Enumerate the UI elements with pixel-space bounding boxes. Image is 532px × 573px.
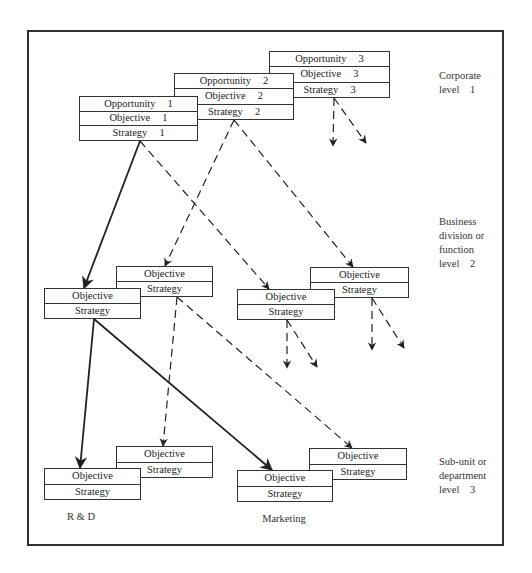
row-number: 2 (255, 107, 260, 118)
row-number: 3 (353, 69, 358, 80)
strategy-row: Strategy1 (80, 125, 197, 140)
row-label: Objective (72, 291, 113, 302)
level-label-3: Sub-unit or department level 3 (439, 455, 487, 497)
row-label: Strategy (75, 306, 110, 317)
objective-row: Objective (45, 289, 140, 303)
objective-row: Objective (117, 447, 212, 462)
objective-row: Objective (117, 267, 212, 281)
opportunity-row: Opportunity3 (270, 52, 389, 66)
dashed-arrow (165, 120, 234, 266)
row-label: Objective (72, 471, 113, 482)
row-label: Strategy (342, 285, 377, 296)
objective-row: Objective1 (80, 111, 197, 126)
row-label: Opportunity (295, 54, 346, 65)
row-number: 2 (263, 76, 268, 87)
row-label: Objective (266, 292, 307, 303)
row-label: Strategy (147, 465, 182, 476)
objective-row: Objective (238, 471, 332, 486)
unit-label-marketing: Marketing (262, 513, 306, 524)
hierarchy-diagram: Opportunity3Objective3Strategy3Opportuni… (0, 0, 532, 573)
dashed-arrow (334, 98, 366, 143)
row-label: Strategy (269, 307, 304, 318)
objective-row: Objective (310, 449, 406, 464)
row-label: Objective (300, 69, 341, 80)
row-number: 1 (162, 113, 167, 124)
objective-row: Objective (238, 290, 334, 304)
row-label: Objective (144, 449, 185, 460)
row-label: Strategy (268, 489, 303, 500)
row-number: 1 (168, 99, 173, 110)
dashed-arrow (234, 120, 353, 267)
row-label: Objective (144, 269, 185, 280)
row-label: Objective (109, 113, 150, 124)
opportunity-row: Opportunity1 (80, 97, 197, 111)
row-label: Objective (265, 473, 306, 484)
row-label: Strategy (303, 85, 338, 96)
row-number: 3 (350, 85, 355, 96)
division-a-front-box: ObjectiveStrategy (44, 288, 141, 319)
row-label: Objective (339, 270, 380, 281)
opportunity-row: Opportunity2 (175, 74, 293, 88)
strategy-row: Strategy (238, 486, 332, 502)
corporate-1-box: Opportunity1Objective1Strategy1 (79, 96, 198, 141)
dashed-arrow (163, 297, 177, 446)
row-number: 2 (258, 91, 263, 102)
objective-row: Objective (311, 268, 408, 282)
row-label: Strategy (208, 107, 243, 118)
row-number: 3 (359, 54, 364, 65)
division-b-front-box: ObjectiveStrategy (237, 289, 335, 320)
dashed-arrow (372, 298, 404, 348)
dashed-arrow (333, 98, 334, 146)
rnd-front-box: ObjectiveStrategy (44, 468, 141, 500)
row-label: Strategy (341, 467, 376, 478)
row-label: Strategy (147, 284, 182, 295)
row-number: 1 (159, 128, 164, 139)
solid-arrow (80, 319, 94, 468)
strategy-row: Strategy (45, 303, 140, 318)
unit-label-r-d: R & D (67, 511, 95, 522)
row-label: Strategy (112, 128, 147, 139)
level-label-1: Corporate level 1 (439, 69, 481, 97)
row-label: Objective (338, 451, 379, 462)
dashed-arrow (287, 320, 317, 367)
level-label-2: Business division or function level 2 (439, 215, 484, 271)
row-label: Strategy (75, 487, 110, 498)
marketing-front-box: ObjectiveStrategy (237, 470, 333, 502)
objective-row: Objective (45, 469, 140, 484)
row-label: Objective (205, 91, 246, 102)
row-label: Opportunity (104, 99, 155, 110)
strategy-row: Strategy (238, 304, 334, 319)
row-label: Opportunity (200, 76, 251, 87)
strategy-row: Strategy (45, 484, 140, 500)
